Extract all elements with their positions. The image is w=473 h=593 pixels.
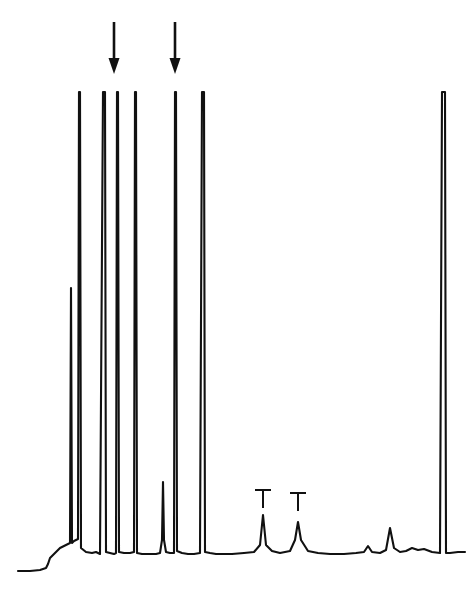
chromatogram-figure: TT <box>0 0 473 593</box>
chromatogram-plot: TT <box>0 0 473 593</box>
